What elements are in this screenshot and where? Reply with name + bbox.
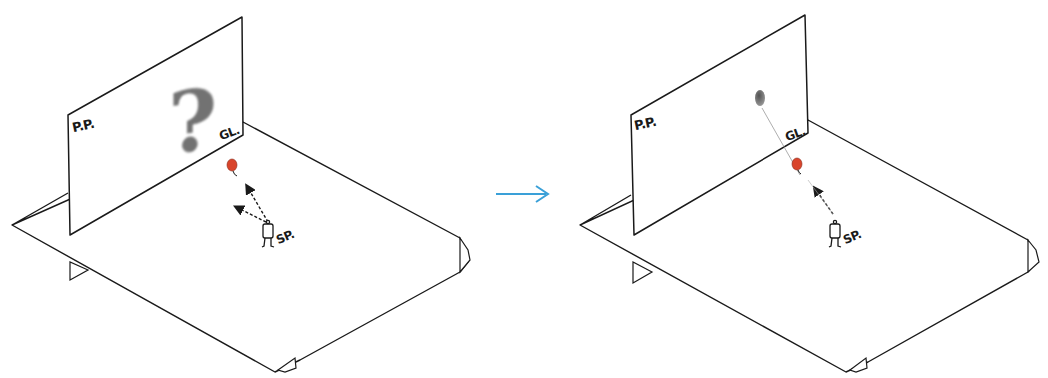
projected-balloon-icon bbox=[755, 90, 765, 106]
question-mark-icon: ? bbox=[168, 69, 217, 173]
picture-plane-underside bbox=[633, 262, 652, 283]
balloon-icon bbox=[792, 158, 802, 170]
perspective-drawing-after bbox=[568, 0, 1048, 378]
fold-right-icon bbox=[1028, 240, 1039, 272]
panel-before: P.P. GL. SP. ? bbox=[0, 0, 480, 378]
panel-after: P.P. GL. SP. bbox=[568, 0, 1048, 378]
balloon-icon bbox=[227, 159, 237, 171]
fold-right-icon bbox=[460, 238, 470, 272]
right-arrow-icon bbox=[494, 183, 554, 205]
perspective-drawing-before bbox=[0, 0, 480, 378]
